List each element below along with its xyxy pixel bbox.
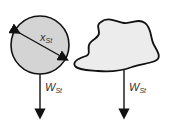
spherical-particle: xSt WSt [11,16,69,114]
weight-label-sphere: WSt [45,81,63,94]
particle-diagram: xSt WSt WSt [0,0,171,125]
weight-label-irregular: WSt [129,81,147,94]
irregular-particle: WSt [74,19,158,114]
